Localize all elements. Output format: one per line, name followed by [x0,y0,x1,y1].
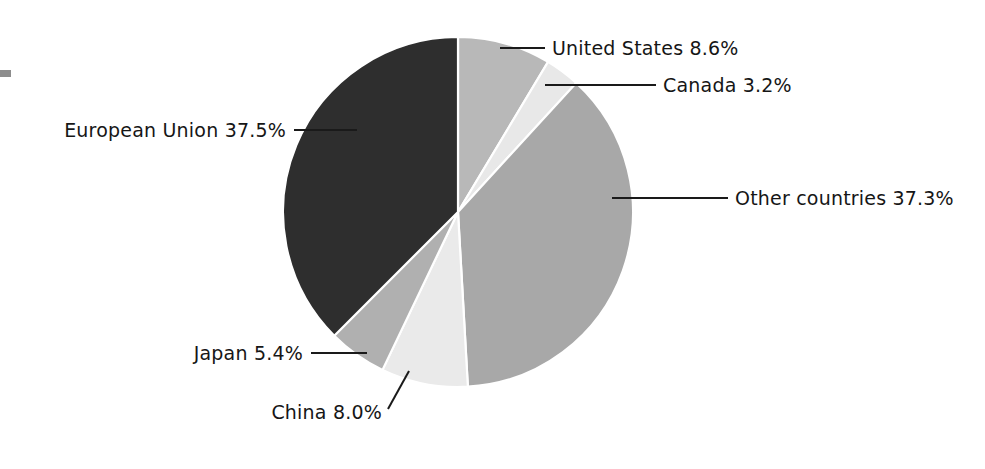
pie-chart-figure: United States 8.6%Canada 3.2%Other count… [0,0,985,469]
pie-slices-group [283,37,633,387]
pie-chart-canvas: United States 8.6%Canada 3.2%Other count… [0,0,985,469]
pie-label-united-states: United States 8.6% [552,37,739,59]
pie-label-canada: Canada 3.2% [663,74,792,96]
pie-label-china: China 8.0% [271,401,382,423]
pie-label-other-countries: Other countries 37.3% [735,187,954,209]
scan-edge-artifact [0,70,11,77]
pie-label-european-union: European Union 37.5% [64,119,286,141]
pie-label-japan: Japan 5.4% [193,342,303,364]
